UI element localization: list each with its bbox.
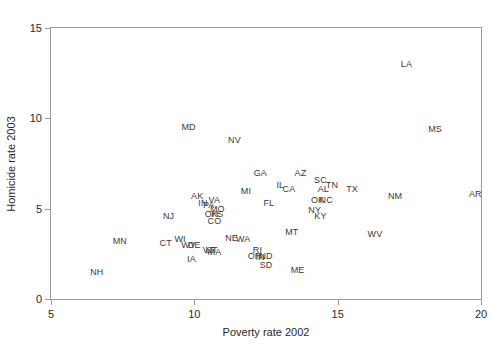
y-axis-tick bbox=[45, 28, 51, 29]
data-point-label: WV bbox=[368, 229, 383, 238]
data-point-label: WA bbox=[236, 235, 250, 244]
x-axis-label: Poverty rate 2002 bbox=[50, 326, 482, 338]
data-point-label: MI bbox=[241, 186, 251, 195]
x-axis-tick bbox=[194, 299, 195, 305]
x-axis-tick-label: 10 bbox=[188, 308, 200, 320]
data-point-label: GA bbox=[254, 168, 267, 177]
data-point-label: IA bbox=[187, 255, 196, 264]
data-point-label: DE bbox=[188, 240, 201, 249]
x-axis-tick-label: 20 bbox=[475, 308, 487, 320]
data-point-label: NC bbox=[320, 195, 333, 204]
data-point-label: ME bbox=[291, 266, 305, 275]
data-point-label: NM bbox=[388, 192, 402, 201]
data-point-label: CA bbox=[283, 184, 296, 193]
y-axis-tick-label: 15 bbox=[30, 22, 42, 34]
y-axis-tick-label: 0 bbox=[36, 293, 42, 305]
data-point-label: MT bbox=[285, 228, 298, 237]
x-axis-tick-label: 15 bbox=[332, 308, 344, 320]
data-point-label: AL bbox=[318, 184, 329, 193]
data-point-label: TX bbox=[346, 184, 358, 193]
y-axis-tick bbox=[45, 118, 51, 119]
data-point-label: MS bbox=[428, 125, 442, 134]
data-point-label: CO bbox=[208, 217, 222, 226]
data-point-label: FL bbox=[264, 199, 275, 208]
data-point-label: MN bbox=[113, 237, 127, 246]
y-axis-label: Homicide rate 2003 bbox=[4, 27, 18, 300]
data-point-label: NJ bbox=[163, 211, 174, 220]
data-point-label: MD bbox=[181, 123, 195, 132]
data-point-label: CT bbox=[160, 238, 172, 247]
plot-area: 0510155101520LAMSMDNVGAAZSCILCATNALTXNMA… bbox=[50, 27, 482, 300]
x-axis-tick bbox=[338, 299, 339, 305]
data-point-label: NV bbox=[228, 136, 241, 145]
data-point-label: LA bbox=[401, 60, 412, 69]
y-axis-tick-label: 5 bbox=[36, 203, 42, 215]
data-point-label: KY bbox=[314, 211, 326, 220]
x-axis-tick bbox=[51, 299, 52, 305]
y-axis-tick-label: 10 bbox=[30, 112, 42, 124]
data-point-label: AZ bbox=[295, 168, 307, 177]
data-point-label: AR bbox=[469, 190, 482, 199]
y-axis-tick bbox=[45, 209, 51, 210]
x-axis-tick-label: 5 bbox=[48, 308, 54, 320]
data-point-label: MA bbox=[208, 248, 222, 257]
data-point-label: SD bbox=[260, 260, 273, 269]
data-point-label: NH bbox=[90, 267, 103, 276]
x-axis-tick bbox=[481, 299, 482, 305]
scatter-chart: Homicide rate 2003 0510155101520LAMSMDNV… bbox=[0, 0, 492, 355]
